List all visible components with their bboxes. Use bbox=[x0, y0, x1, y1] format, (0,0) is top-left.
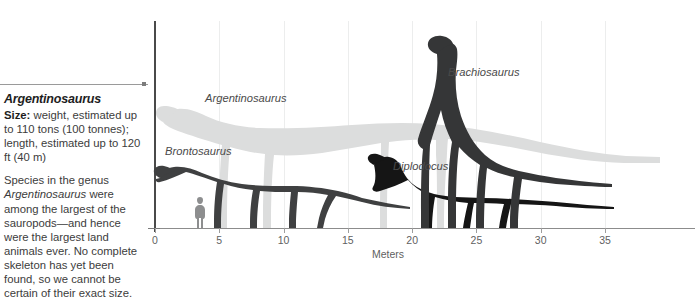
x-tick-0 bbox=[155, 228, 156, 233]
label-diplodocus: Diplodocus bbox=[393, 160, 448, 172]
x-tick-label-35: 35 bbox=[599, 234, 611, 246]
silhouette-brontosaurus bbox=[154, 166, 410, 228]
x-axis-origin-tick bbox=[148, 228, 160, 229]
x-axis bbox=[149, 228, 695, 229]
gridline-10 bbox=[284, 21, 285, 228]
y-axis bbox=[154, 21, 156, 232]
x-tick-35 bbox=[605, 228, 606, 233]
gridline-35 bbox=[605, 21, 606, 228]
label-argentinosaurus: Argentinosaurus bbox=[205, 92, 286, 104]
label-brachiosaurus: Brachiosaurus bbox=[448, 66, 520, 78]
x-tick-label-10: 10 bbox=[278, 234, 290, 246]
gridline-25 bbox=[476, 21, 477, 228]
x-tick-15 bbox=[348, 228, 349, 233]
gridline-5 bbox=[219, 21, 220, 228]
gridline-20 bbox=[412, 21, 413, 228]
x-tick-25 bbox=[476, 228, 477, 233]
x-tick-5 bbox=[219, 228, 220, 233]
x-tick-label-30: 30 bbox=[535, 234, 547, 246]
label-brontosaurus: Brontosaurus bbox=[165, 145, 232, 157]
silhouette-human bbox=[195, 197, 205, 228]
x-tick-20 bbox=[412, 228, 413, 233]
x-tick-label-20: 20 bbox=[406, 234, 418, 246]
x-axis-title: Meters bbox=[372, 248, 404, 260]
x-tick-label-25: 25 bbox=[471, 234, 483, 246]
gridline-30 bbox=[541, 21, 542, 228]
x-tick-label-15: 15 bbox=[342, 234, 354, 246]
gridline-15 bbox=[348, 21, 349, 228]
x-tick-label-0: 0 bbox=[152, 234, 158, 246]
x-tick-10 bbox=[284, 228, 285, 233]
silhouette-brachiosaurus bbox=[418, 36, 612, 228]
x-tick-label-5: 5 bbox=[216, 234, 222, 246]
x-tick-30 bbox=[541, 228, 542, 233]
